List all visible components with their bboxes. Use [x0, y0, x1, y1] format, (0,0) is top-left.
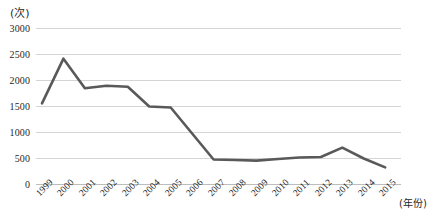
gridlines [36, 29, 401, 185]
data-series-line [42, 59, 385, 168]
y-tick-label: 500 [0, 154, 30, 164]
y-tick-label: 1500 [0, 102, 30, 112]
y-tick-label: 3000 [0, 24, 30, 34]
line-chart: (次) (年份) 050010001500200025003000 199920… [0, 0, 435, 223]
y-tick-label: 2500 [0, 50, 30, 60]
y-tick-label: 1000 [0, 128, 30, 138]
y-tick-label: 0 [0, 180, 30, 190]
y-tick-label: 2000 [0, 76, 30, 86]
